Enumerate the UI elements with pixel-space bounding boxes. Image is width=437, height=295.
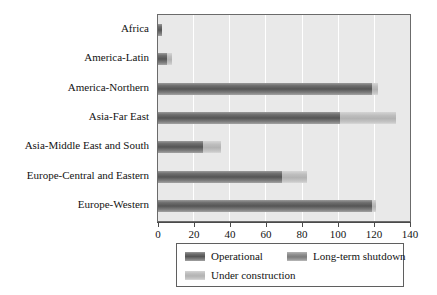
x-tick bbox=[302, 222, 303, 227]
stacked-bar bbox=[158, 83, 378, 95]
under-construction-swatch bbox=[185, 271, 205, 280]
x-tick bbox=[410, 222, 411, 227]
x-tick-label: 60 bbox=[246, 228, 286, 240]
x-tick-label: 40 bbox=[210, 228, 250, 240]
x-axis-line bbox=[157, 222, 411, 223]
bar-rows bbox=[158, 15, 410, 221]
stacked-bar bbox=[158, 112, 396, 124]
bar-row bbox=[158, 83, 410, 95]
x-tick bbox=[338, 222, 339, 227]
bar-segment-operational bbox=[158, 112, 340, 124]
stacked-bar bbox=[158, 141, 221, 153]
y-axis-label-asia-far-east: Asia-Far East bbox=[89, 111, 149, 122]
y-axis-label-america-northern: America-Northern bbox=[68, 82, 149, 93]
y-axis-label-america-latin: America-Latin bbox=[84, 52, 149, 63]
bar-row bbox=[158, 53, 410, 65]
legend-item-operational: Operational bbox=[185, 251, 263, 262]
legend-label-under-construction: Under construction bbox=[211, 270, 296, 281]
x-tick-label: 120 bbox=[354, 228, 394, 240]
y-axis-label-europe-western: Europe-Western bbox=[78, 199, 149, 210]
x-tick bbox=[266, 222, 267, 227]
bar-segment-operational bbox=[158, 53, 167, 65]
bar-segment-operational bbox=[158, 24, 162, 36]
bar-row bbox=[158, 112, 410, 124]
bar-segment-under-construction bbox=[340, 112, 396, 124]
x-tick-label: 140 bbox=[390, 228, 430, 240]
legend-item-under-construction: Under construction bbox=[185, 270, 296, 281]
bar-chart: AfricaAmerica-LatinAmerica-NorthernAsia-… bbox=[0, 0, 437, 295]
bar-segment-under-construction bbox=[167, 53, 172, 65]
legend-label-long-term-shutdown: Long-term shutdown bbox=[313, 251, 406, 262]
bar-row bbox=[158, 171, 410, 183]
bar-segment-operational bbox=[158, 141, 203, 153]
y-axis-labels: AfricaAmerica-LatinAmerica-NorthernAsia-… bbox=[0, 14, 153, 222]
y-axis-label-asia-middle-east-and-south: Asia-Middle East and South bbox=[25, 140, 149, 151]
x-tick-label: 100 bbox=[318, 228, 358, 240]
bar-segment-under-construction bbox=[282, 171, 307, 183]
stacked-bar bbox=[158, 24, 162, 36]
x-tick bbox=[374, 222, 375, 227]
legend-label-operational: Operational bbox=[211, 251, 263, 262]
operational-swatch bbox=[185, 252, 205, 261]
legend: Operational Long-term shutdown Under con… bbox=[176, 243, 404, 287]
bar-row bbox=[158, 200, 410, 212]
x-tick-label: 80 bbox=[282, 228, 322, 240]
y-axis-label-europe-central-and-eastern: Europe-Central and Eastern bbox=[27, 170, 149, 181]
x-tick-label: 0 bbox=[138, 228, 178, 240]
stacked-bar bbox=[158, 171, 307, 183]
x-tick-label: 20 bbox=[174, 228, 214, 240]
bar-segment-operational bbox=[158, 200, 372, 212]
x-tick bbox=[230, 222, 231, 227]
long-term-shutdown-swatch bbox=[287, 252, 307, 261]
bar-segment-under-construction bbox=[372, 200, 376, 212]
plot-area bbox=[157, 14, 411, 222]
bar-segment-under-construction bbox=[372, 83, 377, 95]
bar-segment-under-construction bbox=[203, 141, 221, 153]
stacked-bar bbox=[158, 200, 376, 212]
stacked-bar bbox=[158, 53, 172, 65]
bar-row bbox=[158, 141, 410, 153]
y-axis-label-africa: Africa bbox=[121, 23, 149, 34]
bar-segment-operational bbox=[158, 83, 372, 95]
bar-row bbox=[158, 24, 410, 36]
x-tick bbox=[158, 222, 159, 227]
x-tick bbox=[194, 222, 195, 227]
legend-item-long-term-shutdown: Long-term shutdown bbox=[287, 251, 406, 262]
bar-segment-operational bbox=[158, 171, 282, 183]
